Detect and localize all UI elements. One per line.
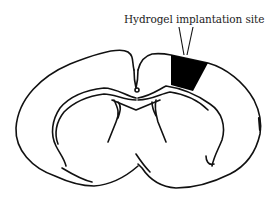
left-inner-cortex-boundary xyxy=(53,88,136,166)
left-hemisphere-outline xyxy=(16,50,138,186)
needle-line-right xyxy=(187,27,193,55)
needle-line-left xyxy=(179,27,184,55)
right-internal-capsule xyxy=(152,100,166,142)
right-edge-mark xyxy=(259,118,260,130)
implantation-site-label: Hydrogel implantation site xyxy=(124,13,264,25)
brain-outline-drawing xyxy=(0,0,276,199)
midline-fissure xyxy=(134,70,138,88)
left-internal-capsule xyxy=(108,100,120,142)
left-corpus-callosum xyxy=(56,94,136,144)
brain-section-diagram: Hydrogel implantation site xyxy=(0,0,276,199)
hydrogel-implant-region xyxy=(171,55,208,91)
midline-notch xyxy=(135,88,139,92)
